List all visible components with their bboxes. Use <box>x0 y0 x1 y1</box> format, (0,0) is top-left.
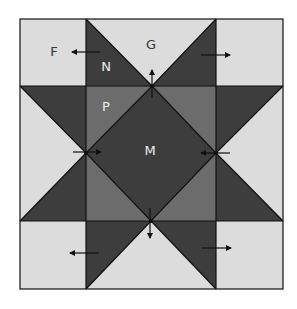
quilt-diagram: F G N P M <box>0 0 297 309</box>
label-N: N <box>101 59 111 74</box>
label-P: P <box>102 99 110 114</box>
quilt-block-svg: F G N P M <box>0 0 297 309</box>
label-F: F <box>50 44 57 59</box>
label-M: M <box>144 143 155 158</box>
label-G: G <box>146 37 156 52</box>
